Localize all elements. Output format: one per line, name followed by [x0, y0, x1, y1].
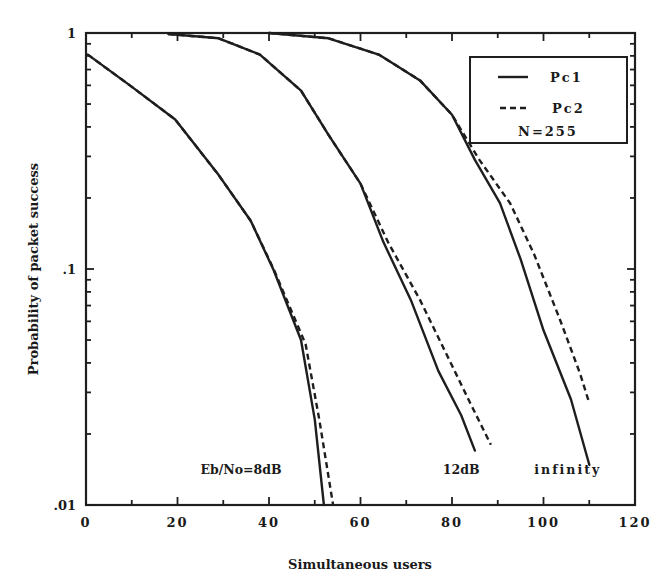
- y-tick-label: 1: [67, 26, 76, 41]
- legend: Pc1 Pc2 N=255: [470, 57, 627, 143]
- legend-label-pc1: Pc1: [550, 70, 583, 85]
- x-tick-label: 60: [349, 515, 371, 530]
- x-tick-label: 40: [258, 515, 280, 530]
- curve-annotations: Eb/No=8dB12dBinfinity: [200, 462, 601, 477]
- y-axis-title: Probability of packet success: [26, 163, 41, 375]
- x-tick-label: 120: [618, 515, 651, 530]
- curve-label: infinity: [534, 462, 601, 477]
- series-12db-pc2: [168, 34, 491, 445]
- series-eb-no-8db-pc2: [88, 55, 333, 505]
- x-tick-label: 80: [441, 515, 463, 530]
- x-axis-tick-labels: 020406080100120: [80, 515, 651, 530]
- x-tick-label: 0: [80, 515, 91, 530]
- y-axis-tick-labels: .01.11: [53, 26, 76, 513]
- x-tick-label: 20: [166, 515, 188, 530]
- legend-note: N=255: [518, 124, 578, 139]
- legend-label-pc2: Pc2: [552, 101, 585, 116]
- curve-label: Eb/No=8dB: [200, 462, 281, 477]
- series-eb-no-8db-pc1: [88, 55, 324, 505]
- curve-label: 12dB: [443, 462, 480, 477]
- y-tick-label: .01: [53, 498, 76, 513]
- x-tick-label: 100: [527, 515, 560, 530]
- chart: 020406080100120 .01.11 Simultaneous user…: [0, 0, 671, 583]
- series-12db-pc1: [168, 34, 475, 451]
- y-tick-label: .1: [62, 262, 76, 277]
- x-axis-title: Simultaneous users: [288, 557, 432, 572]
